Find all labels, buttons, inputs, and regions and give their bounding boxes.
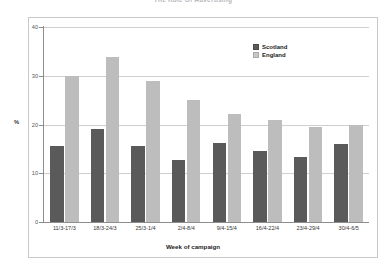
bar-group (85, 27, 126, 222)
x-axis-tick-label: 2/4-8/4 (166, 225, 207, 231)
legend-item-england: England (253, 51, 287, 59)
chart-title: The Role Of Advertising (0, 0, 386, 5)
bar-scotland (294, 157, 308, 222)
chart-figure: The Role Of Advertising 010203040 % 11/3… (0, 0, 386, 273)
x-axis-tick-label: 18/3-24/3 (85, 225, 126, 231)
y-axis-tick-mark (39, 173, 43, 174)
y-axis-title: % (14, 119, 19, 125)
x-axis-line (43, 222, 369, 223)
legend-swatch-icon (253, 44, 259, 50)
bar-group (44, 27, 85, 222)
y-axis-tick-label: 0 (16, 219, 38, 225)
x-axis-title: Week of campaign (0, 243, 386, 250)
legend-swatch-icon (253, 52, 259, 58)
y-axis-tick-mark (39, 222, 43, 223)
bar-england (309, 127, 323, 222)
bar-group (288, 27, 329, 222)
bar-england (106, 57, 120, 222)
bar-scotland (131, 146, 145, 222)
x-axis-tick-label: 9/4-15/4 (207, 225, 248, 231)
legend-label: England (262, 51, 286, 60)
y-axis-tick-mark (39, 76, 43, 77)
bar-series-container (44, 27, 369, 222)
bar-scotland (172, 160, 186, 222)
bar-england (268, 120, 282, 222)
bar-group (125, 27, 166, 222)
bar-group (166, 27, 207, 222)
bar-scotland (213, 143, 227, 222)
y-axis-tick-label: 10 (16, 170, 38, 176)
x-axis-tick-label: 25/3-1/4 (125, 225, 166, 231)
plot-area (44, 27, 369, 222)
x-axis-tick-label: 30/4-6/5 (328, 225, 369, 231)
x-axis-tick-label: 11/3-17/3 (44, 225, 85, 231)
bar-group (328, 27, 369, 222)
bar-england (146, 81, 160, 222)
bar-group (207, 27, 248, 222)
bar-england (187, 100, 201, 222)
bar-scotland (50, 146, 64, 222)
y-axis-tick-label: 30 (16, 73, 38, 79)
y-axis-tick-label: 40 (16, 24, 38, 30)
bar-england (228, 114, 242, 222)
bar-scotland (253, 151, 267, 222)
chart-legend: ScotlandEngland (253, 43, 287, 59)
bar-scotland (91, 129, 105, 222)
bar-scotland (334, 144, 348, 222)
x-axis-tick-labels: 11/3-17/318/3-24/325/3-1/42/4-8/49/4-15/… (44, 225, 369, 237)
y-axis-tick-mark (39, 27, 43, 28)
x-axis-tick-label: 16/4-22/4 (247, 225, 288, 231)
y-axis-tick-mark (39, 125, 43, 126)
bar-england (65, 76, 79, 222)
bar-england (349, 125, 363, 222)
y-axis-tick-label: 20 (16, 122, 38, 128)
x-axis-tick-label: 23/4-29/4 (288, 225, 329, 231)
